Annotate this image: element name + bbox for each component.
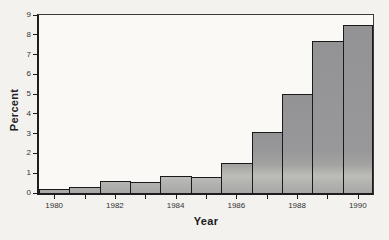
y-tick-label-2: 2 (17, 148, 31, 158)
bar-1981 (69, 187, 100, 193)
y-tick-mark-7 (33, 54, 37, 55)
y-tick-label-7: 7 (17, 50, 31, 60)
x-tick-mark-1986 (236, 195, 237, 199)
x-tick-mark-1985 (206, 195, 207, 199)
x-tick-mark-1982 (115, 195, 116, 199)
x-tick-mark-1989 (327, 195, 328, 199)
x-tick-mark-1981 (85, 195, 86, 199)
bar-1984 (160, 176, 191, 193)
x-tick-mark-1984 (176, 195, 177, 199)
y-tick-mark-2 (33, 153, 37, 154)
y-tick-label-1: 1 (17, 168, 31, 178)
x-tick-mark-1983 (145, 195, 146, 199)
plot-area (37, 14, 374, 195)
x-tick-mark-1990 (358, 195, 359, 199)
bar-1990 (343, 25, 373, 193)
x-tick-label-1990: 1990 (342, 201, 374, 210)
y-tick-mark-0 (33, 193, 37, 194)
y-axis-title-text: Percent (8, 89, 20, 131)
y-tick-label-8: 8 (17, 30, 31, 40)
x-tick-mark-1987 (267, 195, 268, 199)
bar-1982 (100, 181, 131, 193)
x-tick-mark-1980 (54, 195, 55, 199)
bar-1987 (252, 132, 283, 193)
y-tick-mark-8 (33, 34, 37, 35)
x-tick-label-1980: 1980 (38, 201, 70, 210)
y-tick-label-0: 0 (17, 188, 31, 198)
y-tick-mark-1 (33, 173, 37, 174)
bar-1980 (39, 189, 70, 193)
y-tick-mark-3 (33, 133, 37, 134)
bar-1986 (221, 163, 252, 193)
y-tick-mark-6 (33, 74, 37, 75)
x-tick-label-1982: 1982 (99, 201, 131, 210)
y-tick-mark-9 (33, 15, 37, 16)
y-tick-label-9: 9 (17, 10, 31, 20)
x-tick-mark-1988 (297, 195, 298, 199)
y-tick-label-6: 6 (17, 69, 31, 79)
y-tick-mark-5 (33, 94, 37, 95)
bar-chart: 0123456789198019821984198619881990 Perce… (0, 0, 389, 240)
x-tick-label-1988: 1988 (281, 201, 313, 210)
bar-1988 (282, 94, 313, 193)
x-tick-label-1984: 1984 (160, 201, 192, 210)
x-axis-title: Year (39, 215, 373, 227)
bar-1983 (130, 182, 161, 193)
y-tick-mark-4 (33, 113, 37, 114)
bar-1989 (312, 41, 343, 193)
x-tick-label-1986: 1986 (220, 201, 252, 210)
bar-1985 (191, 177, 222, 193)
